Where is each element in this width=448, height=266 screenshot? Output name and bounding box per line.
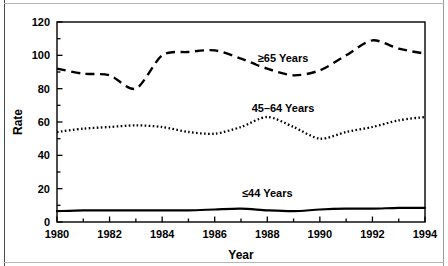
x-tick-label: 1992 [360,228,384,240]
y-tick-label: 20 [38,183,50,195]
y-tick-label: 0 [44,216,50,228]
series-line-1 [57,40,425,89]
x-tick-label: 1986 [202,228,226,240]
data-series-group [57,40,425,211]
x-tick-label: 1994 [413,228,438,240]
y-tick-label: 100 [32,49,50,61]
y-tick-label: 60 [38,116,50,128]
y-tick-label: 40 [38,149,50,161]
series-label-65-plus: ≥65 Years [258,52,309,64]
y-axis-title: Rate [11,109,25,135]
series-line-2 [57,117,425,139]
y-tick-label: 80 [38,83,50,95]
chart-figure: 020406080100120 198019821984198619881990… [0,0,448,266]
x-axis-title: Year [228,248,254,262]
series-label-45-64: 45–64 Years [252,102,315,114]
x-tick-label: 1984 [150,228,175,240]
plot-frame [57,22,425,222]
x-axis-ticks [57,217,425,223]
y-tick-label: 120 [32,16,50,28]
series-label-44-under: ≤44 Years [242,187,293,199]
x-tick-label: 1988 [255,228,279,240]
series-line-3 [57,208,425,211]
y-axis-tick-labels: 020406080100120 [32,16,50,228]
x-tick-label: 1990 [308,228,332,240]
series-annotations-group: ≥65 Years≥65 Years45–64 Years45–64 Years… [242,52,314,199]
x-tick-label: 1982 [97,228,121,240]
line-chart-plot: 020406080100120 198019821984198619881990… [0,0,448,266]
x-tick-label: 1980 [45,228,69,240]
x-axis-tick-labels: 19801982198419861988199019921994 [45,228,438,240]
y-axis-ticks [57,22,63,222]
